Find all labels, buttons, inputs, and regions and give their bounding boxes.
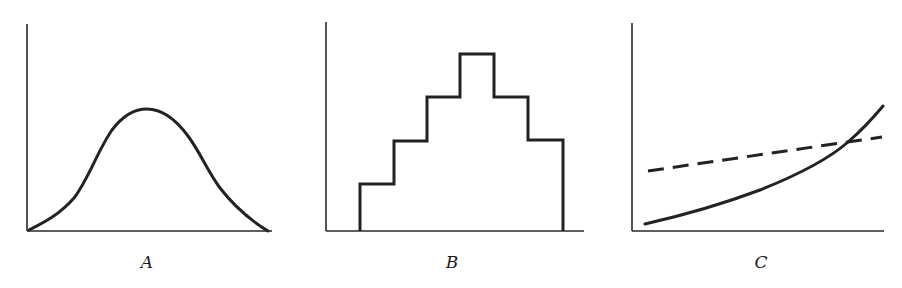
panel-c-plot bbox=[0, 0, 902, 288]
figure: A B C bbox=[0, 0, 902, 288]
panel-c-label: C bbox=[741, 251, 781, 273]
